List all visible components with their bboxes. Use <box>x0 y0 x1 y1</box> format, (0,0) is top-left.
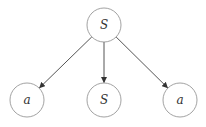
node-root-label: S <box>100 18 108 32</box>
node-root: S <box>87 8 121 42</box>
edges <box>40 37 168 88</box>
node-right: a <box>163 83 197 117</box>
parse-tree-diagram: S a S a <box>0 0 206 127</box>
node-right-label: a <box>176 93 183 107</box>
edge-root-to-right <box>116 37 167 88</box>
node-middle: S <box>87 83 121 117</box>
node-left-label: a <box>23 93 30 107</box>
node-left: a <box>10 83 44 117</box>
node-middle-label: S <box>100 93 108 107</box>
edge-root-to-left <box>40 37 92 88</box>
